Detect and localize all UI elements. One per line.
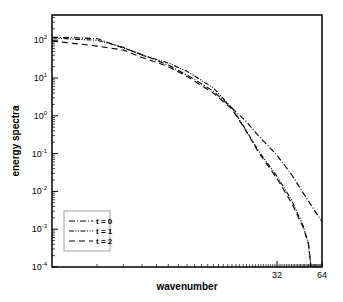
y-tick-label: 102 [34,34,48,45]
legend-label: t = 0 [96,217,113,226]
legend-label: t = 2 [96,237,113,246]
y-tick-label: 10-1 [32,148,48,159]
y-tick-label: 10-2 [32,185,48,196]
legend-label: t = 1 [96,227,113,236]
y-axis-title: energy spectra [10,105,21,177]
y-tick-label: 100 [34,110,48,121]
y-tick-label: 10-4 [32,261,48,272]
x-tick-label: 32 [272,270,282,280]
x-axis-title: wavenumber [155,281,217,292]
energy-spectra-chart: 10210110010-110-210-310-4 3264 wavenumbe… [0,0,343,302]
y-tick-label: 101 [34,72,48,83]
series-line-t0 [52,37,322,221]
x-tick-label: 64 [317,270,327,280]
y-axis-ticks: 10210110010-110-210-310-4 [32,17,58,272]
legend: t = 0t = 1t = 2 [64,211,113,251]
x-axis-ticks: 3264 [97,261,327,280]
y-tick-label: 10-3 [32,223,48,234]
